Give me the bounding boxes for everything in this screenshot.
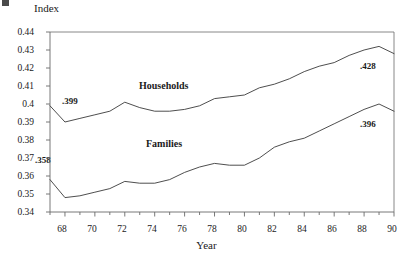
- x-tick-label: 86: [320, 224, 344, 234]
- x-tick-label: 70: [80, 224, 104, 234]
- y-tick-label: 0.37: [0, 153, 34, 163]
- x-tick-label: 76: [170, 224, 194, 234]
- x-tick-label: 88: [350, 224, 374, 234]
- plot-frame: [50, 32, 394, 212]
- annotation-households-start: .399: [62, 96, 78, 106]
- x-tick-label: 68: [50, 224, 74, 234]
- chart-figure: Index 0.44 0.43 0.42 0.41 0.4 0.39 0.38 …: [0, 0, 413, 263]
- y-tick-label: 0.34: [0, 207, 34, 217]
- x-tick-marks: [50, 212, 394, 217]
- y-axis-title: Index: [34, 2, 59, 14]
- x-tick-label: 90: [380, 224, 404, 234]
- y-tick-label: 0.44: [0, 27, 34, 37]
- y-tick-label: 0.38: [0, 135, 34, 145]
- annotation-households-end: .428: [360, 61, 376, 71]
- y-tick-label: 0.39: [0, 117, 34, 127]
- scan-artifact: [2, 0, 9, 6]
- y-tick-label: 0.42: [0, 63, 34, 73]
- y-tick-label: 0.41: [0, 81, 34, 91]
- annotation-families-end: .396: [360, 119, 376, 129]
- series-label-families: Families: [146, 138, 182, 149]
- x-tick-label: 78: [200, 224, 224, 234]
- y-tick-label: 0.36: [0, 171, 34, 181]
- x-tick-label: 84: [290, 224, 314, 234]
- y-tick-label: 0.43: [0, 45, 34, 55]
- y-tick-marks: [46, 32, 50, 212]
- x-tick-label: 80: [230, 224, 254, 234]
- series-line-families: [50, 104, 394, 198]
- x-tick-label: 72: [110, 224, 134, 234]
- x-axis-title: Year: [0, 239, 413, 251]
- annotation-families-start: .358: [35, 155, 51, 165]
- series-line-households: [50, 46, 394, 122]
- y-tick-label: 0.35: [0, 189, 34, 199]
- series-label-households: Households: [139, 80, 188, 91]
- x-tick-label: 74: [140, 224, 164, 234]
- y-tick-label: 0.4: [0, 99, 34, 109]
- x-tick-label: 82: [260, 224, 284, 234]
